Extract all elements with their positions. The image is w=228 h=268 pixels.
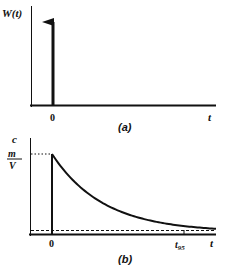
diagram: W(t) 0 t (a) c m V 0 t95 t (b) [0,0,228,268]
panel-b-y-label: c [12,133,17,145]
panel-b-x-label: t [210,237,214,249]
panel-a-origin-label: 0 [50,112,55,123]
panel-a-x-label: t [208,111,212,123]
panel-a-y-label: W(t) [2,7,22,20]
decay-curve [52,154,216,229]
panel-a: W(t) 0 t (a) [2,6,216,133]
panel-a-caption-text: (a) [118,121,132,133]
panel-a-caption: (a) [118,121,132,133]
initial-value-denominator: V [9,160,17,171]
panel-b: c m V 0 t95 t (b) [7,133,216,265]
t95-label: t95 [175,239,185,252]
panel-b-caption: (b) [118,253,132,265]
panel-b-origin-label: 0 [49,238,54,249]
panel-b-caption-text: (b) [118,253,132,265]
t95-label-subscript: 95 [178,244,186,252]
initial-value-numerator: m [8,148,16,159]
